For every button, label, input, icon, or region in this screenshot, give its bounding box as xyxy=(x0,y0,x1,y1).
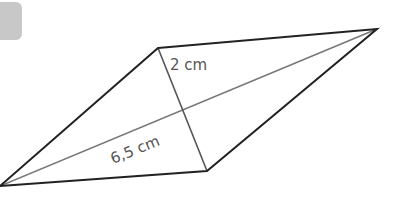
long-diagonal xyxy=(0,29,377,186)
label-2cm: 2 cm xyxy=(170,56,207,74)
kite-diagram: 2 cm 6,5 cm xyxy=(0,0,393,208)
